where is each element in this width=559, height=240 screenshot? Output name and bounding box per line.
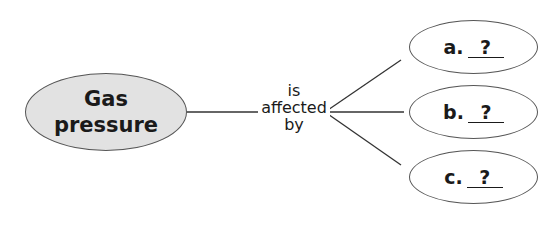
answer-blank-c[interactable]: ?: [467, 167, 503, 188]
link-label: is affected by: [258, 82, 330, 133]
answer-letter-a: a.: [443, 36, 463, 58]
link-label-line3: by: [258, 116, 330, 133]
answer-blank-a[interactable]: ?: [468, 37, 504, 58]
answer-letter-c: c.: [444, 166, 462, 188]
answer-node-a: a. ?: [409, 20, 538, 74]
answer-letter-b: b.: [443, 101, 464, 123]
main-concept-line1: Gas: [54, 86, 158, 112]
answer-blank-b[interactable]: ?: [468, 102, 504, 123]
answer-node-c: c. ?: [409, 150, 538, 204]
link-label-line1: is: [258, 82, 330, 99]
main-concept-node: Gas pressure: [25, 73, 187, 151]
main-concept-line2: pressure: [54, 112, 158, 138]
link-label-line2: affected: [258, 99, 330, 116]
answer-node-b: b. ?: [409, 85, 538, 139]
